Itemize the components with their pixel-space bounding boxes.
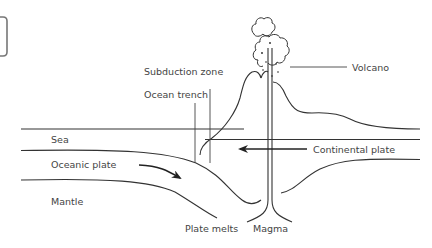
volcano-slope	[273, 82, 420, 129]
label-magma: Magma	[253, 223, 288, 234]
label-ocean-trench: Ocean trench	[144, 89, 208, 100]
label-continental-plate: Continental plate	[313, 144, 395, 155]
continental-wedge	[200, 71, 261, 155]
label-mantle: Mantle	[51, 196, 83, 207]
continental-plate-bottom-line	[281, 159, 420, 193]
frame-edge	[0, 17, 7, 56]
oceanic-plate-arrow-icon	[139, 165, 180, 178]
subduction-diagram: Sea Oceanic plate Mantle Subduction zone…	[0, 0, 432, 248]
label-sea: Sea	[51, 134, 69, 145]
label-plate-melts: Plate melts	[185, 223, 238, 234]
volcano-cone-left	[261, 71, 268, 78]
eruption-plume-icon	[252, 18, 289, 77]
label-volcano: Volcano	[352, 62, 389, 73]
label-oceanic-plate: Oceanic plate	[51, 159, 116, 170]
label-subduction-zone: Subduction zone	[144, 66, 223, 77]
magma-conduit	[247, 48, 292, 222]
